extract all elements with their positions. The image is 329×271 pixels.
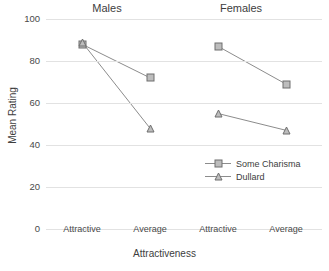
gridline-60 — [46, 103, 322, 104]
legend-key-triangle-icon — [205, 171, 231, 183]
data-point-females-some-charisma-attractive — [214, 42, 223, 51]
chart-container: Males Females 100806040200 AttractiveAve… — [0, 0, 329, 271]
y-axis-title: Mean Rating — [7, 66, 18, 166]
series-line-females-some-charisma — [218, 46, 286, 84]
y-tick-label-0: 0 — [10, 223, 40, 234]
y-tick-label-20: 20 — [10, 181, 40, 192]
x-axis-tick-labels: AttractiveAverageAttractiveAverage — [46, 224, 322, 240]
legend-item-dullard: Dullard — [205, 170, 301, 183]
series-line-males-dullard — [82, 42, 150, 128]
panel-title-females: Females — [186, 2, 296, 14]
x-tick-label-3: Average — [251, 224, 321, 234]
data-point-males-dullard-attractive — [78, 38, 87, 47]
legend-label: Dullard — [236, 172, 265, 182]
gridline-100 — [46, 19, 322, 20]
x-tick-label-2: Attractive — [183, 224, 253, 234]
y-tick-label-80: 80 — [10, 55, 40, 66]
gridline-40 — [46, 145, 322, 146]
x-axis-title: Attractiveness — [0, 248, 329, 259]
data-point-males-dullard-average — [146, 124, 155, 133]
data-point-females-some-charisma-average — [282, 80, 291, 89]
plot-area — [46, 19, 322, 229]
series-lines — [46, 19, 322, 229]
data-point-females-dullard-average — [282, 126, 291, 135]
data-point-females-dullard-attractive — [214, 109, 223, 118]
legend-key-square-icon — [205, 158, 231, 170]
data-point-males-some-charisma-average — [146, 73, 155, 82]
chart-legend: Some CharismaDullard — [205, 157, 301, 183]
gridline-80 — [46, 61, 322, 62]
legend-item-some-charisma: Some Charisma — [205, 157, 301, 170]
x-tick-label-1: Average — [115, 224, 185, 234]
series-line-females-dullard — [218, 114, 286, 131]
gridline-20 — [46, 187, 322, 188]
y-tick-label-100: 100 — [10, 13, 40, 24]
legend-label: Some Charisma — [236, 159, 301, 169]
x-tick-label-0: Attractive — [47, 224, 117, 234]
panel-title-males: Males — [52, 2, 162, 14]
